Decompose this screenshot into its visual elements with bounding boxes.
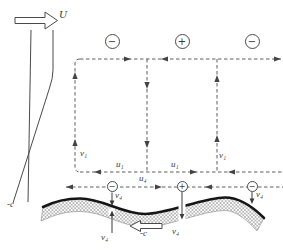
- arrowhead-u4-right: [155, 184, 162, 189]
- v4-label-right: v₄: [256, 190, 263, 199]
- velocity-profile-line: [13, 30, 53, 203]
- u4-label: u₄: [139, 174, 147, 183]
- minus-sign: −: [249, 181, 256, 190]
- diagram-artwork: [0, 0, 283, 251]
- arrowhead-top-left: [161, 56, 168, 61]
- arrowhead-u4-left-end: [66, 184, 73, 189]
- v4-arrow-down-right: [250, 192, 255, 204]
- surface-charge-plus: +: [177, 181, 188, 192]
- minus-sign: −: [108, 35, 116, 46]
- arrowhead-left-up-1: [72, 72, 77, 79]
- v4-label-left-lower: v₄: [101, 233, 108, 242]
- arrowhead-bottom-left-2: [228, 169, 235, 174]
- arrowhead-bottom-left-1: [94, 169, 101, 174]
- phase-speed-label: -c: [140, 229, 147, 238]
- cell-arrowheads: [66, 56, 281, 189]
- wind-speed-label: U: [59, 9, 67, 20]
- v1-label-left: v₁: [80, 149, 87, 158]
- minus-sign: −: [248, 35, 256, 46]
- figure-canvas: − + − − + − U -c -c v₁ v₁ u₁ u₁ u₄ v₄ v₄…: [0, 0, 283, 251]
- plus-sign: +: [178, 35, 186, 46]
- plus-sign: +: [179, 181, 186, 190]
- arrowhead-right-up-1: [214, 75, 219, 82]
- wind-arrow-icon: [15, 12, 58, 29]
- arrowhead-top-right: [124, 56, 131, 61]
- top-charge-minus-left: −: [105, 34, 120, 49]
- arrowhead-left-up-2: [72, 139, 77, 146]
- v4-arrow-down-left: [110, 193, 115, 207]
- minus-c-profile-label: -c: [7, 200, 14, 209]
- arrowhead-u4-left: [205, 184, 212, 189]
- u1-label-right: u₁: [171, 160, 179, 169]
- arrowhead-mid-down-2: [144, 141, 149, 148]
- reference-line: [28, 30, 31, 202]
- u1-label-left: u₁: [116, 160, 124, 169]
- v1-label-right: v₁: [219, 151, 226, 160]
- minus-sign: −: [109, 181, 116, 190]
- arrowhead-bottom-right: [190, 169, 197, 174]
- arrowhead-top-edge-right: [274, 56, 281, 61]
- arrowhead-mid-down-1: [144, 82, 149, 89]
- top-charge-minus-right: −: [245, 34, 260, 49]
- top-charge-plus: +: [175, 34, 190, 49]
- v4-label-center: v₄: [172, 227, 179, 236]
- v4-label-left-upper: v₄: [115, 191, 122, 200]
- arrowhead-right-up-2: [214, 135, 219, 142]
